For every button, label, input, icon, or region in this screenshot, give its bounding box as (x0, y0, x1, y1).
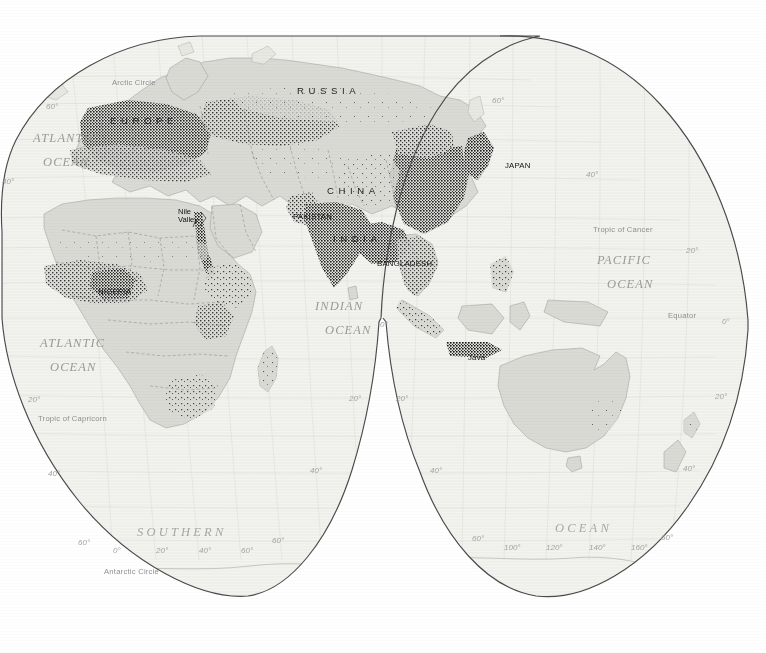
world-population-density-map: ATLANTICOCEANATLANTICOCEANINDIANOCEANPAC… (0, 0, 766, 653)
sri-lanka (348, 286, 358, 300)
map-canvas (0, 0, 766, 653)
